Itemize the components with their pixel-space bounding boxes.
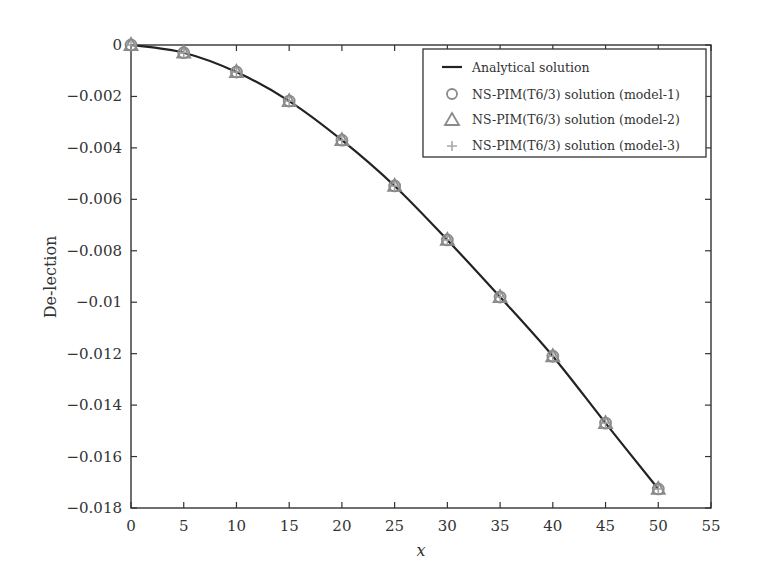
y-tick-label: −0.016 [66,448,122,466]
x-tick-label: 0 [126,517,136,535]
x-tick-label: 45 [596,517,615,535]
legend-label: Analytical solution [471,60,590,75]
x-axis-title: x [416,541,425,560]
legend-label: NS-PIM(T6/3) solution (model-2) [472,112,680,127]
legend: Analytical solution NS-PIM(T6/3) solutio… [423,49,706,157]
y-tick-label: −0.014 [66,396,122,414]
y-tick-label: −0.008 [66,242,122,260]
x-tick-label: 40 [543,517,562,535]
y-tick-label: −0.002 [66,87,122,105]
legend-item-model-3: NS-PIM(T6/3) solution (model-3) [447,138,680,153]
x-tick-label: 30 [438,517,457,535]
y-tick-label: −0.01 [76,293,122,311]
deflection-chart: 05101520253035404550550−0.002−0.004−0.00… [0,0,759,586]
y-axis-title: De-lection [41,236,60,319]
x-tick-label: 5 [179,517,189,535]
legend-label: NS-PIM(T6/3) solution (model-3) [472,138,680,153]
x-tick-label: 35 [491,517,510,535]
y-tick-label: 0 [112,36,122,54]
legend-item-model-1: NS-PIM(T6/3) solution (model-1) [447,87,680,102]
x-tick-label: 50 [649,517,668,535]
x-tick-label: 15 [280,517,299,535]
x-tick-label: 10 [227,517,246,535]
x-tick-label: 25 [385,517,404,535]
legend-item-model-2: NS-PIM(T6/3) solution (model-2) [445,112,680,127]
y-tick-label: −0.012 [66,345,122,363]
x-tick-label: 20 [332,517,351,535]
y-tick-label: −0.018 [66,499,122,517]
y-tick-label: −0.006 [66,190,122,208]
y-tick-label: −0.004 [66,139,122,157]
legend-label: NS-PIM(T6/3) solution (model-1) [472,87,680,102]
x-tick-label: 55 [701,517,720,535]
